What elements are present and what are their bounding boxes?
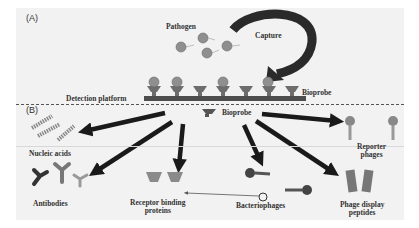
panel-a-label: (A): [26, 13, 38, 23]
capture-arrow-icon: [233, 14, 312, 82]
phage-display-peptides-label: Phage display peptides: [340, 201, 384, 217]
bacteriophages-label: Bacteriophages: [236, 202, 285, 210]
nucleic-acids-icon: [32, 116, 74, 140]
nucleic-acids-label: Nucleic acids: [29, 150, 71, 158]
antibodies-label: Antibodies: [33, 200, 68, 208]
capture-label: Capture: [255, 32, 282, 40]
receptor-binding-proteins-label: Receptor binding proteins: [130, 199, 186, 215]
reporter-phages-label: Reporter phages: [357, 143, 386, 159]
antibodies-icon: [34, 164, 87, 186]
bioprobe-center-label: Bioprobe: [222, 109, 251, 117]
reporter-phages-icon: [345, 116, 398, 140]
bioprobe-icon: [202, 109, 216, 117]
panel-divider: [16, 104, 404, 105]
diagram-graphics: [0, 0, 419, 228]
receptor-binding-proteins-icon: [146, 172, 183, 182]
bioprobe-target-arrows: [85, 113, 337, 172]
phage-display-peptides-icon: [346, 169, 374, 192]
bioprobe-label-a: Bioprobe: [302, 89, 331, 97]
panel-b-label: (B): [26, 105, 38, 115]
bacteriophages-icon: [186, 168, 312, 201]
detection-platform-icon: [144, 77, 306, 101]
pathogen-cluster-icon: [176, 33, 240, 58]
pathogen-label: Pathogen: [166, 23, 196, 31]
faint-rule: [16, 146, 404, 147]
detection-platform-label: Detection platform: [66, 95, 127, 103]
